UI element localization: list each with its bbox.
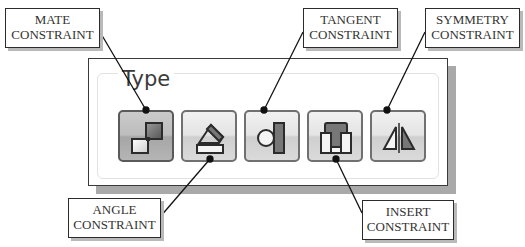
symmetry-constraint-callout: SYMMETRY CONSTRAINT	[425, 8, 520, 48]
callout-line: ANGLE	[69, 202, 160, 217]
callout-line: CONSTRAINT	[363, 219, 453, 234]
tangent-constraint-callout: TANGENT CONSTRAINT	[303, 8, 398, 48]
callout-line: CONSTRAINT	[304, 27, 397, 42]
callout-line: SYMMETRY	[426, 12, 519, 27]
callout-line: INSERT	[363, 204, 453, 219]
callout-line: CONSTRAINT	[69, 217, 160, 232]
mate-constraint-callout: MATE CONSTRAINT	[5, 8, 100, 48]
callout-line: TANGENT	[304, 12, 397, 27]
callout-line: CONSTRAINT	[6, 27, 99, 42]
angle-constraint-callout: ANGLE CONSTRAINT	[68, 198, 161, 238]
callout-line: CONSTRAINT	[426, 27, 519, 42]
callout-line: MATE	[6, 12, 99, 27]
insert-constraint-callout: INSERT CONSTRAINT	[362, 200, 454, 240]
